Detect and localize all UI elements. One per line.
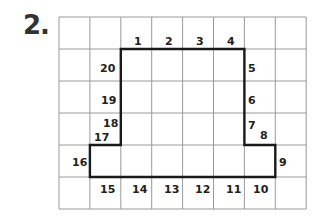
perimeter-number: 15 xyxy=(100,183,115,196)
perimeter-number: 12 xyxy=(195,183,210,196)
perimeter-number: 19 xyxy=(101,94,116,107)
perimeter-number: 17 xyxy=(94,131,109,144)
perimeter-number: 16 xyxy=(72,156,88,169)
perimeter-numbers: 1234567891011121314151617181920 xyxy=(72,35,287,196)
perimeter-number: 8 xyxy=(260,129,268,142)
perimeter-number: 1 xyxy=(134,35,142,48)
perimeter-number: 5 xyxy=(248,62,256,75)
grid-diagram: 1234567891011121314151617181920 xyxy=(0,0,316,217)
grid-lines xyxy=(59,17,306,209)
perimeter-number: 9 xyxy=(279,156,287,169)
perimeter-number: 20 xyxy=(100,62,116,75)
perimeter-number: 18 xyxy=(103,117,118,130)
perimeter-number: 3 xyxy=(196,35,204,48)
perimeter-number: 4 xyxy=(227,35,235,48)
perimeter-number: 6 xyxy=(248,94,256,107)
perimeter-number: 10 xyxy=(253,183,269,196)
perimeter-number: 2 xyxy=(165,35,173,48)
perimeter-number: 7 xyxy=(248,119,256,132)
perimeter-number: 11 xyxy=(226,183,241,196)
perimeter-number: 13 xyxy=(164,183,179,196)
perimeter-number: 14 xyxy=(132,183,148,196)
